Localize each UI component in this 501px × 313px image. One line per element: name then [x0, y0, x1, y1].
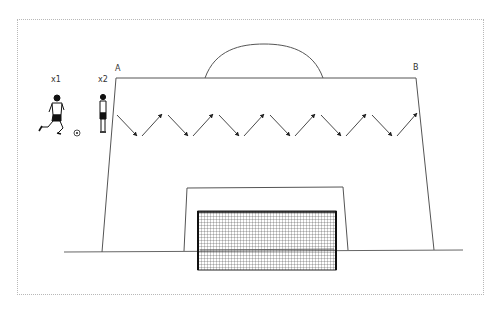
field-diagram: [0, 0, 501, 313]
zigzag-arrows: [117, 113, 417, 136]
player-label-x2: x2: [98, 76, 108, 84]
player-x2-figure: [100, 94, 106, 132]
player-x1-figure: [39, 95, 64, 134]
goal-net: [198, 211, 336, 270]
corner-label-a: A: [115, 65, 120, 73]
player-label-x1: x1: [51, 76, 61, 84]
corner-label-b: B: [413, 64, 419, 72]
soccer-ball-icon: [74, 130, 80, 136]
penalty-arc: [205, 44, 323, 78]
